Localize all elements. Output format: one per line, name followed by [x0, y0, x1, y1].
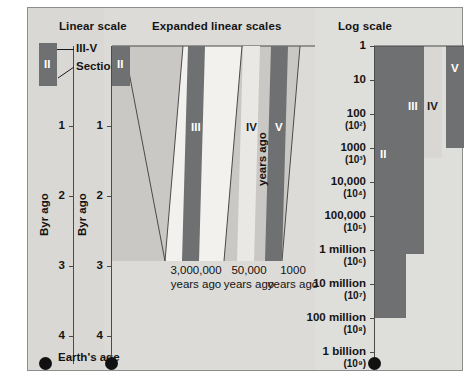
figure-root: Linear scale Expanded linear scales Log …: [0, 0, 476, 380]
figure-plate: Linear scale Expanded linear scales Log …: [27, 7, 463, 371]
log-top-rail: [28, 8, 464, 372]
log-baseline-dot: [368, 357, 381, 370]
